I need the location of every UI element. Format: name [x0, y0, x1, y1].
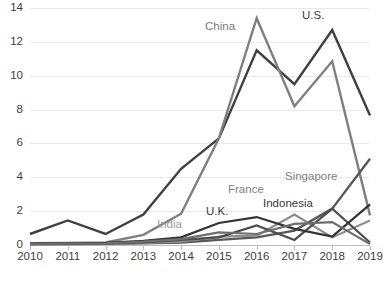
annotation-france: France: [228, 183, 264, 195]
x-tick-label-2019: 2019: [348, 250, 387, 262]
y-tick-label-10: 10: [1, 70, 23, 81]
annotation-u-s: U.S.: [302, 9, 324, 21]
series-line-china: [30, 18, 370, 243]
annotation-u-k: U.K.: [206, 205, 228, 217]
y-tick-label-6: 6: [1, 137, 23, 148]
annotation-indonesia: Indonesia: [263, 197, 313, 209]
y-tick-label-2: 2: [1, 205, 23, 216]
y-tick-label-4: 4: [1, 171, 23, 182]
annotation-india: India: [157, 218, 182, 230]
y-tick-label-12: 12: [1, 36, 23, 47]
annotation-china: China: [205, 20, 235, 32]
plot-area: [30, 8, 370, 245]
y-tick-label-8: 8: [1, 104, 23, 115]
y-tick-label-0: 0: [1, 239, 23, 250]
x-axis-line: [30, 245, 370, 246]
series-lines: [30, 8, 370, 245]
series-line-u-s: [30, 30, 370, 234]
annotation-singapore: Singapore: [285, 170, 337, 182]
y-tick-label-14: 14: [1, 2, 23, 13]
